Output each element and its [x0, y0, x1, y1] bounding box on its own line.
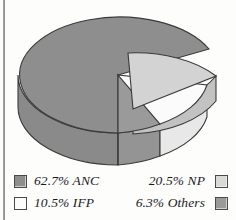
pie-chart-figure: 62.7% ANC 20.5% NP 10.5% IFP 6.3% Others — [0, 0, 236, 220]
chart-plot-area — [0, 0, 236, 172]
legend-label-others: 6.3% Others — [136, 195, 205, 211]
chart-legend: 62.7% ANC 20.5% NP 10.5% IFP 6.3% Others — [0, 168, 236, 220]
legend-swatch-ifp — [14, 197, 27, 210]
pie-chart-graphic — [0, 0, 236, 172]
legend-item-others[interactable]: 6.3% Others — [126, 195, 230, 211]
legend-swatch-np — [215, 175, 228, 188]
legend-label-anc: 62.7% ANC — [34, 173, 99, 189]
legend-swatch-anc — [14, 175, 27, 188]
legend-swatch-others — [215, 197, 228, 210]
legend-item-anc[interactable]: 62.7% ANC — [14, 173, 126, 189]
legend-item-np[interactable]: 20.5% NP — [126, 173, 230, 189]
legend-row: 62.7% ANC 20.5% NP — [14, 170, 230, 192]
legend-label-np: 20.5% NP — [149, 173, 205, 189]
legend-row: 10.5% IFP 6.3% Others — [14, 192, 230, 214]
legend-item-ifp[interactable]: 10.5% IFP — [14, 195, 126, 211]
legend-label-ifp: 10.5% IFP — [34, 195, 94, 211]
